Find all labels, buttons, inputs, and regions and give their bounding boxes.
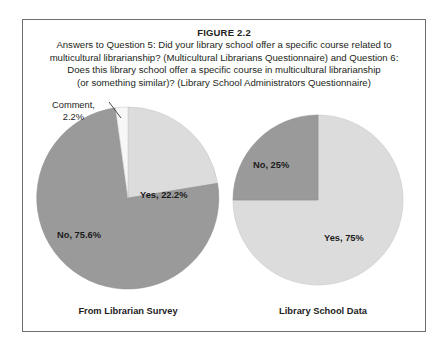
pie-left-label-yes: Yes, 22.2% (140, 190, 188, 200)
pie-left-slice-yes (128, 107, 218, 198)
charts-area: Comment, 2.2% Yes, 22.2% No, 75.6% From … (23, 20, 427, 331)
pie-left-label-comment-line2: 2.2% (52, 112, 95, 124)
pie-left-label-comment-line1: Comment, (52, 100, 95, 112)
pie-right-graphic (223, 105, 413, 295)
pie-left-graphic (28, 98, 228, 298)
pie-right-label-yes: Yes, 75% (324, 233, 364, 243)
pie-right-label-no: No, 25% (253, 160, 289, 170)
pie-left-caption: From Librarian Survey (28, 306, 228, 316)
pie-chart-librarian-survey: Comment, 2.2% Yes, 22.2% No, 75.6% From … (28, 98, 228, 323)
pie-left-label-comment: Comment, 2.2% (52, 100, 95, 123)
figure-frame: FIGURE 2.2 Answers to Question 5: Did yo… (22, 19, 426, 332)
pie-right-caption: Library School Data (223, 306, 423, 316)
pie-left-label-no: No, 75.6% (57, 230, 101, 240)
pie-right-slice-no (233, 115, 318, 200)
pie-chart-library-school-data: No, 25% Yes, 75% Library School Data (223, 105, 423, 323)
